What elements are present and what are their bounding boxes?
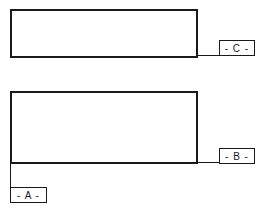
label-b: - B - xyxy=(219,148,255,164)
connector-line-a xyxy=(10,163,11,188)
label-a: - A - xyxy=(10,187,47,203)
bottom-box xyxy=(10,91,198,164)
connector-line-b xyxy=(197,162,220,163)
label-c: - C - xyxy=(219,40,255,56)
connector-line-c xyxy=(197,55,220,56)
top-box xyxy=(10,9,198,58)
